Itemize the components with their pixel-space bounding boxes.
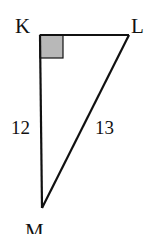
vertex-label-l: L (131, 14, 144, 38)
vertex-label-m: M (25, 219, 44, 234)
triangle-diagram: K L M 12 13 (0, 0, 150, 234)
side-label-lm: 13 (95, 117, 114, 138)
side-km (40, 35, 42, 208)
vertex-label-k: K (15, 14, 30, 38)
right-angle-marker (40, 35, 63, 58)
side-label-km: 12 (11, 117, 30, 138)
side-lm (42, 35, 129, 208)
